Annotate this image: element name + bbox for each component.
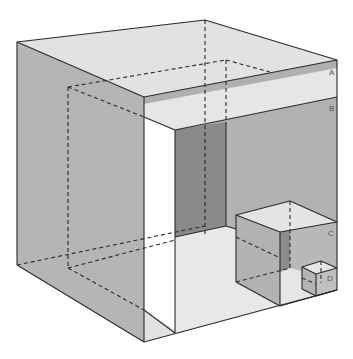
label-b: B: [329, 104, 334, 113]
nested-cubes-diagram: A B C D: [0, 0, 353, 359]
cube-a-front-sliver: [144, 310, 175, 342]
cube-b-inner-dark-wall: [175, 122, 226, 237]
cube-diagram-svg: A B C D: [0, 0, 353, 359]
cube-c-inner-dark: [280, 230, 290, 272]
label-c: C: [328, 229, 334, 238]
label-a: A: [329, 68, 335, 77]
label-d: D: [327, 274, 333, 283]
